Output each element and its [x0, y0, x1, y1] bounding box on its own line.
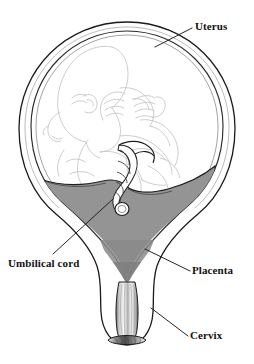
uterus-diagram-svg [0, 0, 254, 364]
label-uterus: Uterus [195, 21, 227, 32]
leader-cervix [151, 308, 188, 336]
label-umbilical-cord: Umbilical cord [8, 258, 79, 269]
anatomy-figure: Uterus Placenta Cervix Umbilical cord [0, 0, 254, 364]
label-placenta: Placenta [192, 265, 233, 276]
label-cervix: Cervix [190, 330, 222, 341]
